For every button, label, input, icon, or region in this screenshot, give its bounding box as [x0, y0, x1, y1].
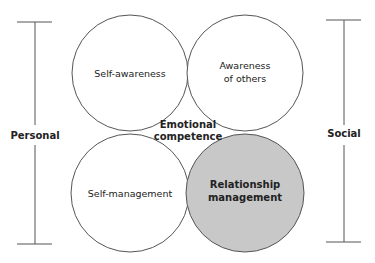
emotional-competence-label-line1: Emotional: [160, 119, 217, 130]
social-label: Social: [327, 128, 361, 139]
relationship-management-label-line1: Relationship: [210, 179, 281, 190]
diagram-canvas: Personal Social Self-awareness Awareness…: [0, 0, 375, 263]
emotional-competence-diagram: Personal Social Self-awareness Awareness…: [0, 0, 375, 263]
self-management-label: Self-management: [88, 188, 173, 199]
personal-label: Personal: [10, 130, 59, 141]
emotional-competence-label-line2: competence: [154, 131, 223, 142]
personal-bracket: Personal: [10, 22, 59, 244]
awareness-of-others-label-line1: Awareness: [219, 60, 270, 71]
awareness-of-others-label-line2: of others: [224, 73, 266, 84]
relationship-management-label-line2: management: [208, 192, 282, 203]
social-bracket: Social: [326, 20, 361, 242]
self-awareness-label: Self-awareness: [94, 68, 166, 79]
